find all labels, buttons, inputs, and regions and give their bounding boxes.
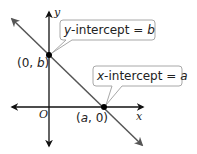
- coordinate-plane: y-intercept = b x-intercept = a (0, b) (…: [0, 0, 197, 154]
- y-axis-label: y: [53, 6, 61, 19]
- y-intercept-callout-text: y-intercept = b: [63, 23, 155, 37]
- y-intercept-label: (0, b): [17, 56, 49, 70]
- x-intercept-point: [101, 104, 107, 110]
- origin-label: O: [39, 108, 48, 121]
- x-intercept-label: (a, 0): [76, 111, 108, 125]
- x-intercept-callout-text: x-intercept = a: [96, 69, 187, 83]
- x-axis-label: x: [136, 110, 143, 123]
